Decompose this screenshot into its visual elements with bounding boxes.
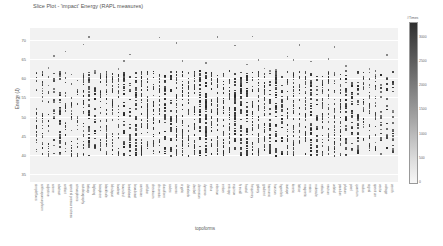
y-tick-label: 40 [8,153,26,158]
data-point [106,140,107,142]
x-tick-label: radius [361,184,365,193]
data-point [65,123,66,125]
data-point [287,148,288,150]
data-point [328,76,329,78]
data-point [334,91,335,93]
data-point [281,127,282,129]
data-point [135,100,136,102]
data-point [322,102,323,104]
data-point [164,131,165,133]
data-point [287,124,288,126]
data-point [340,129,341,131]
data-point [106,84,107,86]
data-point [106,136,107,138]
data-point [334,143,335,145]
data-point [316,139,317,141]
data-point [217,149,218,151]
data-point [205,103,206,105]
data-point [264,132,265,134]
data-point [223,145,224,147]
data-point [94,145,95,147]
data-point [299,123,300,125]
data-point [275,136,276,138]
data-point [188,99,189,101]
data-point [246,145,247,147]
data-point [164,122,165,124]
data-point [141,80,142,82]
data-point [334,138,335,140]
x-tick-label: galaxy [256,184,260,193]
data-point [36,135,37,137]
data-point [217,145,218,147]
data-point [334,108,335,110]
x-tick-label: quantum [355,184,359,196]
outlier-point [65,51,66,53]
data-point [106,130,107,132]
data-point [322,126,323,128]
data-point [59,146,60,148]
outlier-point [386,54,387,56]
outlier-point [94,70,95,72]
data-point [59,124,60,126]
data-point [240,113,241,115]
data-point [392,91,393,93]
data-point [299,125,300,127]
data-point [59,102,60,104]
data-point [59,94,60,96]
data-point [199,97,200,99]
plot-area[interactable] [30,28,398,182]
data-point [88,74,89,76]
data-point [194,87,195,89]
x-tick-label: pixel [349,184,353,191]
data-point [83,153,84,155]
data-point [176,77,177,79]
data-point [83,92,84,94]
data-point [375,149,376,151]
data-point [182,137,183,139]
data-point [170,130,171,132]
data-point [77,129,78,131]
x-tick-label: orbital [332,184,336,193]
data-point [392,83,393,85]
data-point [334,80,335,82]
colorbar [409,22,418,184]
data-point [194,154,195,156]
data-point [287,108,288,110]
data-point [275,150,276,152]
data-point [123,146,124,148]
data-point [147,90,148,92]
x-tick-label: echo [209,184,213,191]
data-point [170,71,171,73]
data-point [252,111,253,113]
data-point [205,93,206,95]
data-point [199,153,200,155]
data-point [42,90,43,92]
data-point [252,134,253,136]
x-tick-label: isotope [285,184,289,194]
data-point [188,135,189,137]
data-point [59,113,60,115]
data-point [159,89,160,91]
data-point [199,84,200,86]
x-tick-label: blackhole [104,184,108,197]
data-point [141,149,142,151]
data-point [281,100,282,102]
data-point [182,84,183,86]
data-point [345,130,346,132]
data-point [258,83,259,85]
data-point [135,130,136,132]
data-point [176,146,177,148]
data-point [77,80,78,82]
data-point [83,136,84,138]
x-tick-label: boolean [116,184,120,195]
data-point [275,109,276,111]
data-point [65,82,66,84]
data-point [217,84,218,86]
data-point [264,144,265,146]
gridline [30,174,398,175]
data-point [71,97,72,99]
data-point [258,91,259,93]
data-point [375,74,376,76]
data-point [258,71,259,73]
colorbar-tick-label: 0 [419,180,421,184]
